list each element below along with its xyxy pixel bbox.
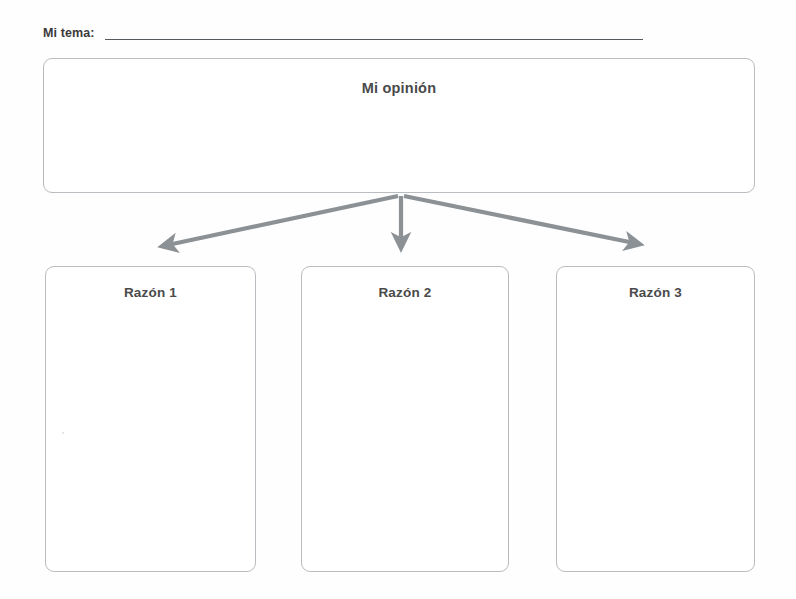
opinion-box[interactable]: Mi opinión [43,58,755,193]
topic-row: Mi tema: [43,20,643,42]
arrow-to-reason-1 [163,196,398,246]
reason-box-1[interactable]: Razón 1 [45,266,256,572]
opinion-title: Mi opinión [44,80,754,96]
scan-speckle [62,432,64,434]
reason-title-3: Razón 3 [557,285,754,300]
reason-title-2: Razón 2 [302,285,508,300]
reason-box-2[interactable]: Razón 2 [301,266,509,572]
worksheet-page: Mi tema: Mi opinión Razón 1 Razón 2 Razó… [0,0,796,599]
topic-label: Mi tema: [43,26,95,42]
reason-title-1: Razón 1 [46,285,255,300]
arrow-to-reason-3 [404,196,639,244]
topic-write-in-line[interactable] [105,39,643,40]
reason-box-3[interactable]: Razón 3 [556,266,755,572]
